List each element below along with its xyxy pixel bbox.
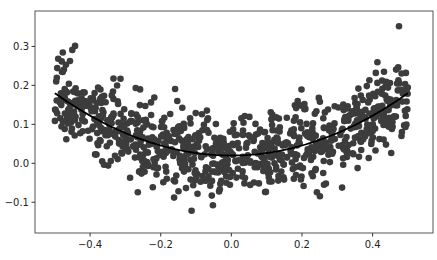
data-point [235, 157, 242, 164]
data-point [398, 70, 405, 77]
data-point [380, 136, 387, 143]
data-point [355, 133, 362, 140]
data-point [68, 115, 75, 122]
data-point [256, 180, 263, 187]
data-point [114, 82, 121, 89]
data-point [181, 168, 188, 175]
data-point [89, 108, 96, 115]
data-point [328, 137, 335, 144]
data-point [240, 132, 247, 139]
data-point [276, 128, 283, 135]
data-point [192, 110, 199, 117]
data-point [161, 124, 168, 131]
data-point [320, 170, 327, 177]
data-point [142, 103, 149, 110]
data-point [310, 154, 317, 161]
data-point [201, 122, 208, 129]
data-point [140, 117, 147, 124]
x-tick-label: 0.4 [365, 239, 381, 250]
data-point [110, 112, 117, 119]
data-point [199, 111, 206, 118]
data-point [210, 202, 217, 209]
data-point [301, 155, 308, 162]
data-point [145, 161, 152, 168]
data-point [188, 208, 195, 215]
data-point [386, 123, 393, 130]
data-point [222, 161, 229, 168]
data-point [71, 89, 78, 96]
data-point [281, 161, 288, 168]
data-point [69, 125, 76, 132]
data-point [374, 80, 381, 87]
data-point [298, 176, 305, 183]
data-point [174, 98, 181, 105]
data-point [304, 132, 311, 139]
data-point [217, 181, 224, 188]
data-point [150, 184, 157, 191]
data-point [60, 49, 67, 56]
data-point [294, 98, 301, 105]
data-point [284, 154, 291, 161]
data-point [137, 86, 144, 93]
data-point [313, 108, 320, 115]
data-point [172, 139, 179, 146]
data-point [195, 144, 202, 151]
data-point [300, 183, 307, 190]
data-point [373, 70, 380, 77]
data-point [138, 170, 145, 177]
data-point [306, 148, 313, 155]
data-point [183, 185, 190, 192]
data-point [372, 147, 379, 154]
data-point [374, 59, 381, 66]
data-point [234, 131, 241, 138]
data-point [269, 122, 276, 129]
data-point [243, 144, 250, 151]
data-point [116, 137, 123, 144]
data-point [81, 89, 88, 96]
data-point [402, 113, 409, 120]
data-point [358, 92, 365, 99]
data-point [363, 126, 370, 133]
data-point [298, 86, 305, 93]
data-point [159, 118, 166, 125]
data-point [219, 145, 226, 152]
data-point [268, 178, 275, 185]
data-point [263, 189, 270, 196]
data-point [139, 158, 146, 165]
data-point [66, 105, 73, 112]
data-point [93, 151, 100, 158]
data-point [194, 190, 201, 197]
data-point [362, 107, 369, 114]
data-point [227, 129, 234, 136]
data-point [173, 172, 180, 179]
data-point [339, 184, 346, 191]
data-point [75, 122, 82, 129]
data-point [89, 126, 96, 133]
data-point [94, 140, 101, 147]
data-point [301, 101, 308, 108]
data-point [191, 156, 198, 163]
data-point [312, 167, 319, 174]
data-point [265, 170, 272, 177]
data-point [164, 176, 171, 183]
data-point [209, 160, 216, 167]
data-point [155, 165, 162, 172]
data-point [325, 106, 332, 113]
data-point [172, 86, 179, 93]
data-point [63, 136, 70, 143]
data-point [61, 118, 68, 125]
data-point [252, 121, 259, 128]
data-point [158, 133, 165, 140]
data-point [216, 188, 223, 195]
data-point [291, 118, 298, 125]
data-point [388, 150, 395, 157]
data-point [171, 194, 178, 201]
data-point [121, 106, 128, 113]
data-point [217, 135, 224, 142]
data-point [230, 120, 237, 127]
y-axis: −0.10.00.10.20.3 [5, 41, 35, 208]
data-point [135, 189, 142, 196]
data-point [354, 165, 361, 172]
data-point [404, 106, 411, 113]
data-point [303, 121, 310, 128]
